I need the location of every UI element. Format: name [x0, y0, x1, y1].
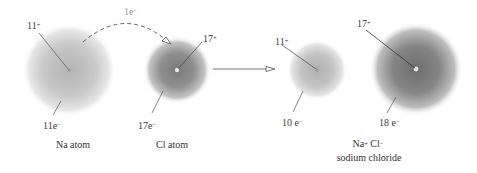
na-ion [282, 40, 347, 112]
cl-ion-nucleus-num: 17 [357, 18, 367, 29]
na-ion-electron-count-label: 10 e− [282, 117, 303, 128]
na-ion-electrons-num: 10 e [282, 117, 299, 128]
na-ion-nucleus-num: 11 [275, 36, 285, 47]
cl-ion [366, 22, 463, 116]
cl-ion-electron-count-label: 18 e− [379, 117, 400, 128]
cl-nucleus-charge-label: 17+ [203, 33, 217, 44]
cl-nucleus-sup: + [213, 34, 217, 41]
cl-electrons-sup: − [152, 121, 156, 128]
cl-ion-electrons-sup: − [396, 118, 400, 125]
na-electrons-sup: − [57, 121, 61, 128]
na-ion-nucleus-charge-label: 11+ [275, 36, 288, 47]
formula-na: Na [353, 138, 365, 149]
cl-ion-electrons-num: 18 e [379, 117, 396, 128]
product-formula: Na+ Cl− [353, 137, 384, 150]
transfer-label: 1e− [124, 6, 137, 17]
open-arrowhead-icon [266, 67, 275, 72]
cl-ion-nucleus-charge-label: 17+ [357, 18, 371, 29]
na-electrons-num: 11e [43, 120, 57, 131]
na-ion-electrons-sup: − [299, 118, 303, 125]
reaction-arrow [213, 67, 275, 72]
cl-nucleus-num: 17 [203, 33, 213, 44]
product-caption: sodium chloride [337, 151, 402, 164]
na-nucleus-charge-label: 11+ [27, 20, 40, 31]
transfer-label-sup: − [133, 7, 137, 14]
cl-ion-nucleus-sup: + [367, 19, 371, 26]
cl-atom [143, 36, 211, 113]
formula-cl-sup: − [380, 140, 384, 147]
formula-cl: Cl [368, 138, 380, 149]
na-ion-nucleus-sup: + [285, 37, 289, 44]
na-nucleus-sup: + [37, 21, 41, 28]
na-atom [22, 23, 116, 117]
ionic-bond-diagram: 1e− 11+ 11e− Na atom 17+ 17e− Cl atom 11… [0, 0, 477, 173]
cl-electron-count-label: 17e− [138, 120, 156, 131]
na-atom-caption: Na atom [56, 138, 90, 151]
na-ion-electron-leader [293, 91, 303, 112]
cl-electrons-num: 17e [138, 120, 152, 131]
cl-atom-caption: Cl atom [156, 138, 188, 151]
na-nucleus-num: 11 [27, 20, 37, 31]
na-electron-count-label: 11e− [43, 120, 61, 131]
